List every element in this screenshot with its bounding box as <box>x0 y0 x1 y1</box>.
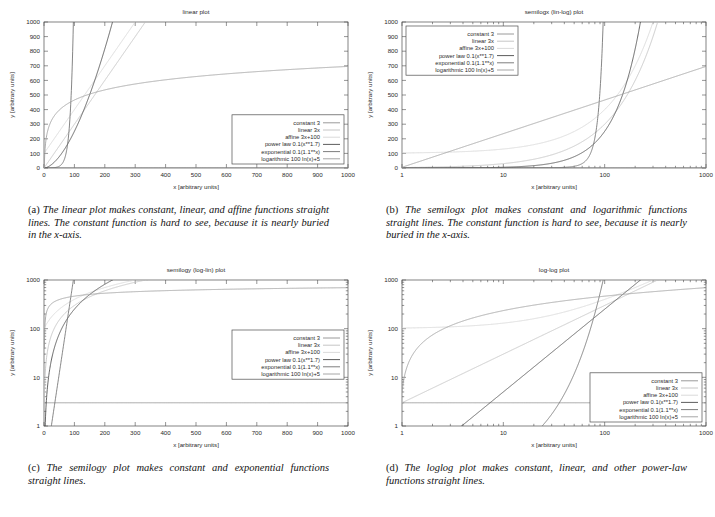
plot-b: semilogx (lin-log) plot11010010000100200… <box>358 0 715 196</box>
svg-text:800: 800 <box>30 47 41 54</box>
svg-text:0: 0 <box>395 164 399 171</box>
svg-text:x [arbitrary units]: x [arbitrary units] <box>173 183 219 190</box>
plot-c: semilogy (log-lin) plot01002003004005006… <box>0 258 357 454</box>
svg-text:power law 0.1(x**1.7): power law 0.1(x**1.7) <box>265 357 320 363</box>
svg-text:400: 400 <box>160 171 171 178</box>
svg-text:600: 600 <box>30 77 41 84</box>
svg-text:linear 3x: linear 3x <box>298 342 320 348</box>
svg-text:power law 0.1(x**1.7): power law 0.1(x**1.7) <box>439 53 494 59</box>
svg-text:500: 500 <box>191 171 202 178</box>
svg-text:100: 100 <box>600 429 611 436</box>
svg-text:200: 200 <box>30 135 41 142</box>
svg-text:600: 600 <box>221 429 232 436</box>
svg-text:10: 10 <box>391 374 398 381</box>
svg-text:700: 700 <box>252 171 263 178</box>
svg-text:100: 100 <box>69 429 80 436</box>
svg-text:semilogy (log-lin) plot: semilogy (log-lin) plot <box>167 266 226 273</box>
svg-text:300: 300 <box>130 171 141 178</box>
caption-b: (b) The semilogx plot makes constant and… <box>386 204 687 242</box>
svg-text:affine 3x+100: affine 3x+100 <box>459 45 494 51</box>
caption-c-text: The semilogy plot makes constant and exp… <box>28 462 329 486</box>
svg-text:900: 900 <box>312 171 323 178</box>
svg-text:1000: 1000 <box>341 429 355 436</box>
svg-text:0: 0 <box>42 429 46 436</box>
panel-d: log-log plot11010010001101001000x [arbit… <box>358 258 715 487</box>
svg-text:exponential 0.1(1.1**x): exponential 0.1(1.1**x) <box>261 149 320 155</box>
svg-text:100: 100 <box>69 171 80 178</box>
svg-text:1000: 1000 <box>699 429 713 436</box>
caption-c-tag: (c) <box>28 462 40 473</box>
svg-text:0: 0 <box>42 171 46 178</box>
svg-text:200: 200 <box>100 429 111 436</box>
svg-text:affine 3x+100: affine 3x+100 <box>643 392 678 398</box>
caption-a-text: The linear plot makes constant, linear, … <box>28 204 329 240</box>
svg-text:affine 3x+100: affine 3x+100 <box>285 134 320 140</box>
panel-a: linear plot01002003004005006007008009001… <box>0 0 357 242</box>
svg-text:600: 600 <box>388 77 399 84</box>
svg-text:exponential 0.1(1.1**x): exponential 0.1(1.1**x) <box>261 364 320 370</box>
svg-text:300: 300 <box>30 120 41 127</box>
svg-text:100: 100 <box>30 325 41 332</box>
caption-a: (a) The linear plot makes constant, line… <box>28 204 329 242</box>
svg-text:power law 0.1(x**1.7): power law 0.1(x**1.7) <box>623 399 678 405</box>
svg-text:exponential 0.1(1.1**x): exponential 0.1(1.1**x) <box>619 407 678 413</box>
caption-b-text: The semilogx plot makes constant and log… <box>386 204 687 240</box>
panel-c: semilogy (log-lin) plot01002003004005006… <box>0 258 357 487</box>
svg-text:x [arbitrary units]: x [arbitrary units] <box>173 441 219 448</box>
svg-text:1000: 1000 <box>384 18 398 25</box>
svg-text:linear plot: linear plot <box>183 8 210 15</box>
svg-text:200: 200 <box>100 171 111 178</box>
svg-text:800: 800 <box>282 171 293 178</box>
svg-text:power law 0.1(x**1.7): power law 0.1(x**1.7) <box>265 141 320 147</box>
caption-a-tag: (a) <box>28 204 40 215</box>
svg-text:900: 900 <box>388 33 399 40</box>
svg-text:100: 100 <box>600 171 611 178</box>
svg-text:linear 3x: linear 3x <box>298 127 320 133</box>
svg-text:1000: 1000 <box>384 276 398 283</box>
svg-text:100: 100 <box>388 325 399 332</box>
svg-text:affine 3x+100: affine 3x+100 <box>285 349 320 355</box>
plot-a: linear plot01002003004005006007008009001… <box>0 0 357 196</box>
svg-text:semilogx (lin-log) plot: semilogx (lin-log) plot <box>525 8 584 15</box>
svg-text:constant 3: constant 3 <box>651 378 678 384</box>
svg-text:100: 100 <box>30 150 41 157</box>
svg-text:300: 300 <box>388 120 399 127</box>
svg-text:400: 400 <box>160 429 171 436</box>
svg-text:1000: 1000 <box>699 171 713 178</box>
svg-text:1: 1 <box>400 171 404 178</box>
svg-text:500: 500 <box>30 91 41 98</box>
caption-d-text: The loglog plot makes constant, linear, … <box>386 462 687 486</box>
svg-text:constant 3: constant 3 <box>467 31 494 37</box>
svg-text:300: 300 <box>130 429 141 436</box>
svg-text:100: 100 <box>388 150 399 157</box>
plot-d: log-log plot11010010001101001000x [arbit… <box>358 258 715 454</box>
svg-text:x [arbitrary units]: x [arbitrary units] <box>531 441 577 448</box>
caption-d: (d) The loglog plot makes constant, line… <box>386 462 687 487</box>
svg-text:800: 800 <box>388 47 399 54</box>
svg-text:logarithmic 100 ln(x)+5: logarithmic 100 ln(x)+5 <box>261 156 320 162</box>
svg-text:logarithmic 100 ln(x)+5: logarithmic 100 ln(x)+5 <box>619 414 678 420</box>
svg-text:exponential 0.1(1.1**x): exponential 0.1(1.1**x) <box>435 60 494 66</box>
svg-text:500: 500 <box>388 91 399 98</box>
svg-text:y [arbitrary units]: y [arbitrary units] <box>366 330 373 376</box>
svg-text:500: 500 <box>191 429 202 436</box>
svg-text:y [arbitrary units]: y [arbitrary units] <box>8 330 15 376</box>
svg-text:800: 800 <box>282 429 293 436</box>
svg-text:y [arbitrary units]: y [arbitrary units] <box>8 72 15 118</box>
svg-text:y [arbitrary units]: y [arbitrary units] <box>366 72 373 118</box>
svg-text:700: 700 <box>388 62 399 69</box>
svg-text:logarithmic 100 ln(x)+5: logarithmic 100 ln(x)+5 <box>261 371 320 377</box>
svg-text:logarithmic 100 ln(x)+5: logarithmic 100 ln(x)+5 <box>435 67 494 73</box>
svg-text:1000: 1000 <box>26 276 40 283</box>
svg-text:linear 3x: linear 3x <box>656 385 678 391</box>
svg-text:1000: 1000 <box>341 171 355 178</box>
caption-d-tag: (d) <box>386 462 398 473</box>
svg-text:200: 200 <box>388 135 399 142</box>
svg-text:900: 900 <box>30 33 41 40</box>
svg-text:10: 10 <box>500 429 507 436</box>
svg-text:constant 3: constant 3 <box>293 335 320 341</box>
caption-b-tag: (b) <box>386 204 398 215</box>
svg-text:log-log plot: log-log plot <box>539 266 570 273</box>
svg-text:10: 10 <box>500 171 507 178</box>
svg-text:900: 900 <box>312 429 323 436</box>
